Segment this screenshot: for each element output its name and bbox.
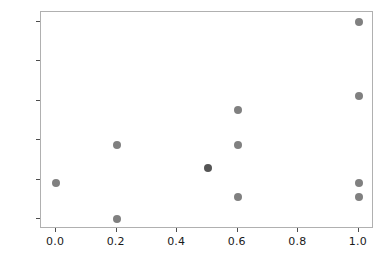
x-axis-tick: [297, 228, 298, 232]
y-axis-tick: [36, 179, 40, 180]
data-point: [234, 106, 242, 114]
x-axis-tick-label: 1.0: [349, 235, 367, 248]
data-point: [113, 141, 121, 149]
data-point: [204, 164, 212, 172]
data-point: [355, 193, 363, 201]
x-axis-tick-label: 0.4: [167, 235, 185, 248]
y-axis-tick: [36, 100, 40, 101]
data-point: [113, 215, 121, 223]
y-axis-tick: [36, 60, 40, 61]
data-point: [234, 141, 242, 149]
axes-frame: [40, 11, 373, 228]
x-axis-tick-label: 0.2: [107, 235, 125, 248]
y-axis-tick: [36, 21, 40, 22]
plot-data-area: [41, 12, 372, 227]
x-axis-tick: [358, 228, 359, 232]
x-axis-tick: [237, 228, 238, 232]
x-axis-tick: [55, 228, 56, 232]
x-axis-tick: [176, 228, 177, 232]
x-axis-tick-label: 0.8: [288, 235, 306, 248]
y-axis-tick: [36, 218, 40, 219]
scatter-plot-figure: 0.00.20.40.60.81.0 0.00.20.40.60.81.0: [0, 0, 390, 259]
data-point: [234, 193, 242, 201]
x-axis-tick-label: 0.0: [46, 235, 64, 248]
data-point: [355, 179, 363, 187]
data-point: [52, 179, 60, 187]
data-point: [355, 18, 363, 26]
data-point: [355, 92, 363, 100]
y-axis-tick: [36, 139, 40, 140]
x-axis-tick: [116, 228, 117, 232]
x-axis-tick-label: 0.6: [228, 235, 246, 248]
